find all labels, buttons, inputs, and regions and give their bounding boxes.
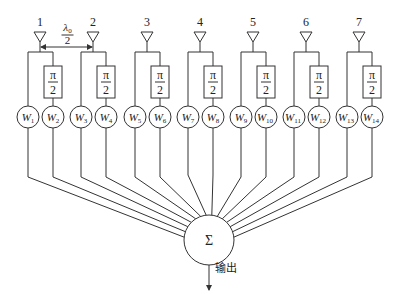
weight-node-w7: W7 xyxy=(177,106,199,128)
antenna-icon xyxy=(247,32,259,42)
phase-numerator: π xyxy=(316,68,322,82)
antenna-icon xyxy=(34,32,46,42)
antenna-icon xyxy=(300,32,312,42)
phase-numerator: π xyxy=(50,68,56,82)
combiner-line xyxy=(160,128,201,216)
combiner-line xyxy=(217,128,241,216)
phase-shifter-box: π2 xyxy=(310,66,328,98)
antenna-icon xyxy=(141,32,153,42)
array-elements: 1π2W1W22π2W3W43π2W5W64π2W7W85π2W9W106π2W… xyxy=(17,15,383,128)
summer-node: Σ输出 xyxy=(184,215,237,290)
phase-shifter-box: π2 xyxy=(151,66,169,98)
antenna-element-4: 4π2W7W8 xyxy=(177,15,224,128)
phase-denominator: 2 xyxy=(50,83,56,97)
weight-node-w14: W14 xyxy=(361,106,383,128)
wavelength-label: λ0 xyxy=(62,21,72,35)
weight-node-w3: W3 xyxy=(70,106,92,128)
phase-shifter-box: π2 xyxy=(363,66,381,98)
weight-node-w2: W2 xyxy=(42,106,64,128)
weight-node-w1: W1 xyxy=(17,106,39,128)
phase-numerator: π xyxy=(157,68,163,82)
antenna-element-2: 2π2W3W4 xyxy=(70,15,117,128)
antenna-element-5: 5π2W9W10 xyxy=(230,15,277,128)
output-label: 输出 xyxy=(215,261,237,275)
antenna-element-1: 1π2W1W2 xyxy=(17,15,64,128)
antenna-icon xyxy=(87,32,99,42)
antenna-icon xyxy=(353,32,365,42)
phase-denominator: 2 xyxy=(263,83,269,97)
weight-node-w8: W8 xyxy=(202,106,224,128)
phase-denominator: 2 xyxy=(369,83,375,97)
sigma-icon: Σ xyxy=(205,233,213,248)
weight-node-w9: W9 xyxy=(230,106,252,128)
weight-node-w12: W12 xyxy=(308,106,330,128)
antenna-number: 3 xyxy=(144,15,150,29)
phase-denominator: 2 xyxy=(157,83,163,97)
antenna-number: 4 xyxy=(197,15,203,29)
antenna-element-3: 3π2W5W6 xyxy=(124,15,171,128)
phase-denominator: 2 xyxy=(316,83,322,97)
phase-shifter-box: π2 xyxy=(204,66,222,98)
combiner-line xyxy=(212,128,213,215)
phase-denominator: 2 xyxy=(210,83,216,97)
weight-node-w13: W13 xyxy=(336,106,358,128)
antenna-number: 5 xyxy=(250,15,256,29)
phase-denominator: 2 xyxy=(103,83,109,97)
combiner-line xyxy=(135,128,196,219)
antenna-element-7: 7π2W13W14 xyxy=(336,15,383,128)
combiner-line xyxy=(227,128,294,222)
combiner-line xyxy=(222,128,266,219)
phase-numerator: π xyxy=(103,68,109,82)
weight-node-w11: W11 xyxy=(283,106,305,128)
spacing-denominator: 2 xyxy=(65,34,71,46)
weight-node-w4: W4 xyxy=(95,106,117,128)
phase-shifter-box: π2 xyxy=(97,66,115,98)
antenna-icon xyxy=(194,32,206,42)
antenna-number: 6 xyxy=(303,15,309,29)
phase-shifter-box: π2 xyxy=(44,66,62,98)
antenna-number: 1 xyxy=(37,15,43,29)
weight-node-w6: W6 xyxy=(149,106,171,128)
antenna-element-6: 6π2W11W12 xyxy=(283,15,330,128)
combiner-line xyxy=(188,128,206,215)
antenna-number: 7 xyxy=(356,15,362,29)
spacing-annotation: λ02 xyxy=(41,21,92,47)
weight-node-w5: W5 xyxy=(124,106,146,128)
weight-node-w10: W10 xyxy=(255,106,277,128)
phase-numerator: π xyxy=(210,68,216,82)
phase-shifter-box: π2 xyxy=(257,66,275,98)
phase-numerator: π xyxy=(263,68,269,82)
antenna-array-beamformer-diagram: 1π2W1W22π2W3W43π2W5W64π2W7W85π2W9W106π2W… xyxy=(0,0,395,294)
phase-numerator: π xyxy=(369,68,375,82)
antenna-number: 2 xyxy=(90,15,96,29)
